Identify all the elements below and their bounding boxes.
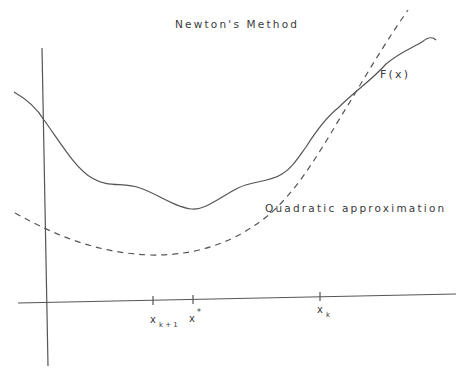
tick-label-x-k: x k	[317, 304, 332, 319]
svg-text:*: *	[197, 308, 203, 317]
svg-text:x: x	[189, 313, 197, 324]
newtons-method-diagram: Newton's Method F(x) Quadratic approxima…	[0, 0, 476, 384]
quadratic-approximation-curve	[15, 10, 408, 255]
svg-text:x: x	[317, 304, 325, 315]
f-of-x-label: F(x)	[380, 68, 410, 81]
svg-text:x: x	[150, 314, 158, 325]
svg-text:k+1: k+1	[159, 321, 180, 329]
svg-text:k: k	[326, 311, 332, 319]
y-axis	[42, 48, 48, 366]
tick-label-x-k-plus-1: x k+1	[150, 314, 180, 329]
x-axis	[18, 294, 456, 303]
tick-label-x-star: x *	[189, 308, 203, 324]
diagram-title: Newton's Method	[175, 18, 299, 30]
quadratic-approximation-label: Quadratic approximation	[265, 202, 446, 214]
